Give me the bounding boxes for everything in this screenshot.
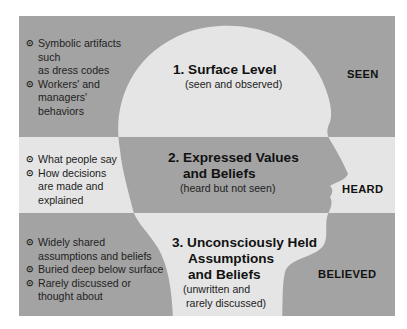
bullet-item: ⊙What people say xyxy=(26,153,136,167)
level-2-title-line-1: 2. Expressed Values xyxy=(168,150,299,166)
circle-dot-bullet-icon: ⊙ xyxy=(26,167,34,181)
level-1-subtitle: (seen and observed) xyxy=(173,78,282,92)
tag-seen: SEEN xyxy=(347,68,379,80)
level-3-title-line-1: 3. Unconsciously Held xyxy=(172,235,317,251)
circle-dot-bullet-icon: ⊙ xyxy=(26,153,34,167)
bullet-text-line: Workers' and xyxy=(38,78,136,92)
circle-dot-bullet-icon: ⊙ xyxy=(26,37,34,51)
circle-dot-bullet-icon: ⊙ xyxy=(26,236,34,250)
circle-dot-bullet-icon: ⊙ xyxy=(26,263,34,277)
bullet-text-line: assumptions and beliefs xyxy=(38,250,176,264)
seen-bullet-list: ⊙Symbolic artifacts suchas dress codes⊙W… xyxy=(26,37,136,119)
bullet-text-line: thought about xyxy=(38,290,176,304)
level-2-title-line-2: and Beliefs xyxy=(168,166,299,182)
level-1-heading: 1. Surface Level (seen and observed) xyxy=(173,62,282,92)
bullet-item: ⊙Workers' andmanagers'behaviors xyxy=(26,78,136,119)
bullet-text-line: Rarely discussed or xyxy=(38,277,176,291)
bullet-item: ⊙Symbolic artifacts suchas dress codes xyxy=(26,37,136,78)
bullet-text-line: Widely shared xyxy=(38,236,176,250)
bullet-text-line: are made and xyxy=(38,180,136,194)
level-2-heading: 2. Expressed Values and Beliefs (heard b… xyxy=(168,150,299,196)
level-3-heading: 3. Unconsciously Held Assumptions and Be… xyxy=(172,235,317,310)
level-1-title: 1. Surface Level xyxy=(173,62,282,78)
bullet-text-line: Buried deep below surface xyxy=(38,263,176,277)
believed-bullet-list: ⊙Widely sharedassumptions and beliefs⊙Bu… xyxy=(26,236,176,304)
bullet-item: ⊙Widely sharedassumptions and beliefs xyxy=(26,236,176,263)
level-3-title-line-2: Assumptions xyxy=(172,251,317,267)
bullet-text-line: What people say xyxy=(38,153,136,167)
tag-believed: BELIEVED xyxy=(318,268,376,280)
bullet-text-line: explained xyxy=(38,194,136,208)
bullet-item: ⊙How decisionsare made andexplained xyxy=(26,167,136,208)
bullet-text-line: Symbolic artifacts such xyxy=(38,37,136,64)
bullet-item: ⊙Buried deep below surface xyxy=(26,263,176,277)
bullet-text-line: behaviors xyxy=(38,105,136,119)
circle-dot-bullet-icon: ⊙ xyxy=(26,277,34,291)
level-2-subtitle: (heard but not seen) xyxy=(168,182,299,196)
bullet-text-line: managers' xyxy=(38,91,136,105)
bullet-text-line: How decisions xyxy=(38,167,136,181)
bullet-item: ⊙Rarely discussed orthought about xyxy=(26,277,176,304)
bullet-text-line: as dress codes xyxy=(38,64,136,78)
circle-dot-bullet-icon: ⊙ xyxy=(26,78,34,92)
level-3-subtitle-line-2: rarely discussed) xyxy=(172,297,317,311)
heard-bullet-list: ⊙What people say⊙How decisionsare made a… xyxy=(26,153,136,207)
level-3-subtitle-line-1: (unwritten and xyxy=(172,283,317,297)
level-3-title-line-3: and Beliefs xyxy=(172,267,317,283)
tag-heard: HEARD xyxy=(342,183,383,195)
